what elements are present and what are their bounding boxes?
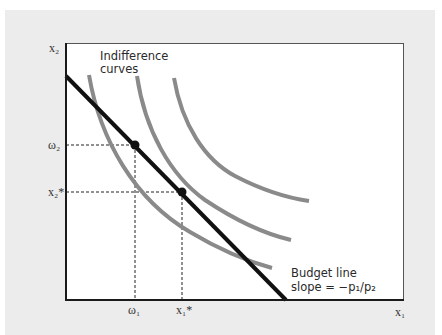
indifference-label-line2: curves xyxy=(100,62,138,76)
budget-label-line1: Budget line xyxy=(291,266,357,280)
budget-label-line2: slope = −p₁/p₂ xyxy=(291,280,376,294)
tick-omega2: ω₂ xyxy=(48,138,60,152)
y-axis-label: x₂ xyxy=(49,41,59,55)
diagram-canvas: x₂ x₁ ω₂ x₂* ω₁ x₁* Indifference curves … xyxy=(0,0,442,335)
tick-omega1: ω₁ xyxy=(128,303,140,317)
tick-x2-star: x₂* xyxy=(48,185,64,199)
plot-area xyxy=(66,43,404,300)
x-axis-label: x₁ xyxy=(395,305,405,319)
optimal-point xyxy=(178,188,187,197)
indifference-label-line1: Indifference xyxy=(100,49,168,63)
endowment-point xyxy=(131,141,140,150)
tick-x1-star: x₁* xyxy=(176,303,192,317)
